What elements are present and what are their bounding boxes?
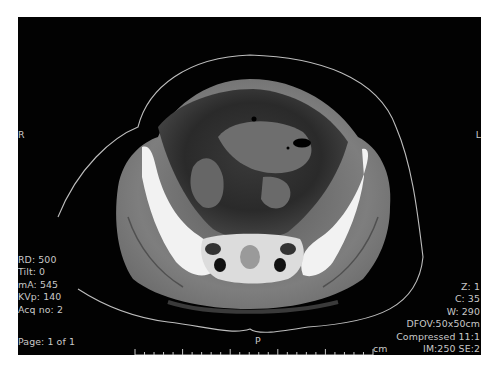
page-info: Page: 1 of 1 xyxy=(18,336,75,348)
image-series: IM:250 SE:2 xyxy=(396,343,480,355)
scale-unit: cm xyxy=(373,343,387,354)
acq-rd: RD: 500 xyxy=(18,254,63,266)
window-center: C: 35 xyxy=(396,293,480,305)
orientation-marker-posterior: P xyxy=(255,335,261,347)
acquisition-info: RD: 500 Tilt: 0 mA: 545 KVp: 140 Acq no:… xyxy=(18,254,63,316)
orientation-marker-right: R xyxy=(18,129,25,141)
window-width: W: 290 xyxy=(396,306,480,318)
acq-tilt: Tilt: 0 xyxy=(18,266,63,278)
display-info: Z: 1 C: 35 W: 290 DFOV:50x50cm Compresse… xyxy=(396,281,480,355)
acq-kvp: KVp: 140 xyxy=(18,291,63,303)
acq-ma: mA: 545 xyxy=(18,279,63,291)
orientation-marker-left: L xyxy=(476,129,481,141)
ct-image-viewer[interactable]: R L P RD: 500 Tilt: 0 mA: 545 KVp: 140 A… xyxy=(18,17,481,355)
scale-ruler xyxy=(134,348,374,355)
compression-ratio: Compressed 11:1 xyxy=(396,331,480,343)
acq-number: Acq no: 2 xyxy=(18,304,63,316)
display-fov: DFOV:50x50cm xyxy=(396,318,480,330)
zoom-level: Z: 1 xyxy=(396,281,480,293)
